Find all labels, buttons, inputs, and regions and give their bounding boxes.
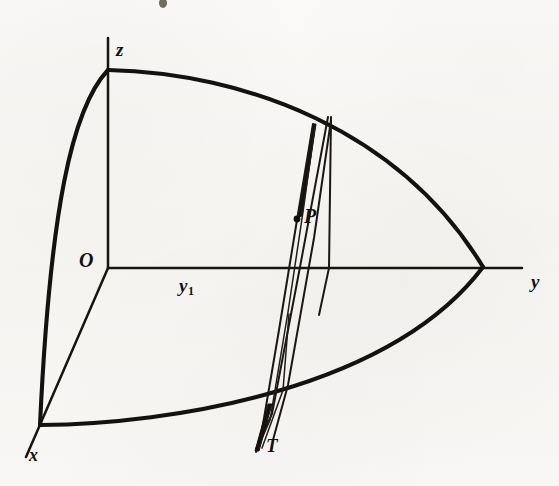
arc-xz-plane (40, 70, 108, 425)
origin-label: O (79, 250, 93, 270)
y1-label: y1 (179, 276, 194, 297)
z-axis-label: z (116, 40, 123, 59)
ink-speck-top (159, 0, 167, 8)
arc-xy-plane (40, 267, 483, 425)
point-p-dot (294, 216, 301, 223)
octant-arcs-group (40, 70, 483, 425)
x-axis-line (26, 268, 108, 457)
point-markers-group (294, 216, 301, 223)
y1-label-base: y (179, 275, 187, 296)
scan-artifacts-group (159, 0, 167, 8)
spherical-octant-drawing (0, 0, 559, 486)
y1-label-subscript: 1 (188, 284, 194, 298)
tangent-sliver-group (255, 124, 316, 452)
y-axis-label: y (531, 272, 539, 291)
x-axis-label: x (29, 446, 38, 464)
arc-yz-plane (108, 70, 483, 267)
section-right-edge (319, 117, 331, 315)
figure-root: z O y1 y x P T (0, 0, 559, 486)
point-t-label: T (266, 436, 278, 455)
point-p-label: P (304, 206, 316, 226)
